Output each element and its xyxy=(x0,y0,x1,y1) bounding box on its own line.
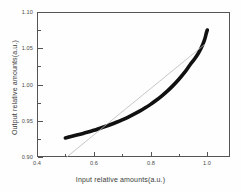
y-axis-tick xyxy=(38,12,43,13)
chart-figure: 0.40.60.81.00.900.951.001.051.10 Input r… xyxy=(0,0,241,193)
y-axis-minor-tick xyxy=(38,66,41,67)
y-axis-title: Output relative amounts(a.u.) xyxy=(11,18,18,158)
y-axis-minor-tick xyxy=(38,139,41,140)
y-axis-tick xyxy=(38,121,43,122)
x-axis-tick-label: 0.4 xyxy=(33,160,41,166)
x-axis-tick-label: 0.8 xyxy=(147,160,155,166)
x-axis-tick xyxy=(207,152,208,157)
x-axis-minor-tick xyxy=(122,154,123,157)
x-axis-tick-label: 1.0 xyxy=(203,160,211,166)
x-axis-tick xyxy=(94,152,95,157)
y-axis-tick xyxy=(38,85,43,86)
y-axis-minor-tick xyxy=(38,30,41,31)
x-axis-minor-tick xyxy=(179,154,180,157)
y-axis-tick xyxy=(38,157,43,158)
x-axis-minor-tick xyxy=(65,154,66,157)
x-axis-tick xyxy=(151,152,152,157)
y-axis-tick xyxy=(38,48,43,49)
y-axis-minor-tick xyxy=(38,103,41,104)
plot-frame xyxy=(37,12,230,157)
y-axis-tick-label: 1.10 xyxy=(8,9,33,15)
x-axis-tick-label: 0.6 xyxy=(90,160,98,166)
x-axis-title: Input relative amounts(a.u.) xyxy=(0,176,241,183)
